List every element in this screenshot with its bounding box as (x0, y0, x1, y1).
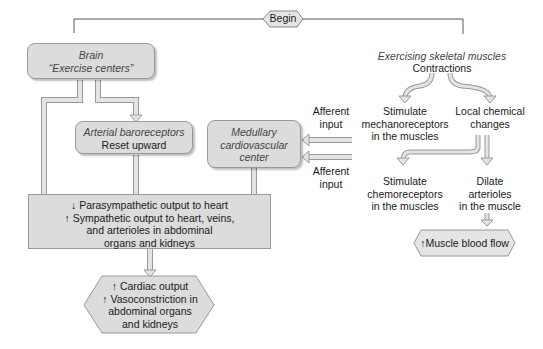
mechano-line3: in the muscles (355, 130, 455, 143)
result-line4: and kidneys (95, 318, 205, 331)
begin-line-right (303, 19, 463, 34)
begin-label: Begin (263, 12, 303, 25)
medullary-line2: cardiovascular (208, 139, 300, 152)
output-line2: ↑ Sympathetic output to heart, veins, (29, 212, 270, 225)
dilate-line1: Dilate (448, 175, 532, 188)
dilate-line2: arterioles (448, 188, 532, 201)
muscle-blood-flow: ↑Muscle blood flow (414, 237, 515, 250)
chemical-text: Local chemical changes (448, 105, 532, 130)
afferent-input-top: Afferent input (306, 105, 356, 130)
chemo-line3: in the muscles (355, 200, 455, 213)
mechano-text: Stimulate mechanoreceptors in the muscle… (355, 105, 455, 143)
mechano-line1: Stimulate (355, 105, 455, 118)
baroreceptors-subtitle: Reset upward (76, 139, 192, 152)
afferent-bottom-line2: input (306, 178, 356, 191)
autonomic-output-box: ↓ Parasympathetic output to heart ↑ Symp… (28, 194, 271, 249)
muscles-title: Exercising skeletal muscles (352, 50, 532, 63)
chemo-line2: chemoreceptors (355, 188, 455, 201)
medullary-box: Medullary cardiovascular center (207, 120, 301, 168)
result-box: ↑ Cardiac output ↑ Vasoconstriction in a… (95, 280, 205, 330)
dilate-text: Dilate arterioles in the muscle (448, 175, 532, 213)
mechano-line2: mechanoreceptors (355, 118, 455, 131)
output-line3: and arterioles in abdominal (29, 224, 270, 237)
result-line1: ↑ Cardiac output (95, 280, 205, 293)
afferent-top-line1: Afferent (306, 105, 356, 118)
output-line1: ↓ Parasympathetic output to heart (29, 199, 270, 212)
baroreceptors-box: Arterial baroreceptors Reset upward (75, 121, 193, 154)
dilate-line3: in the muscle (448, 200, 532, 213)
brain-title: Brain (28, 49, 154, 62)
output-line4: organs and kidneys (29, 237, 270, 250)
afferent-bottom-line1: Afferent (306, 165, 356, 178)
result-line3: abdominal organs (95, 305, 205, 318)
brain-subtitle: “Exercise centers” (28, 62, 154, 75)
brain-box: Brain “Exercise centers” (27, 43, 155, 79)
afferent-top-line2: input (306, 118, 356, 131)
baroreceptors-title: Arterial baroreceptors (76, 126, 192, 139)
chemical-line1: Local chemical (448, 105, 532, 118)
medullary-line1: Medullary (208, 126, 300, 139)
result-line2: ↑ Vasoconstriction in (95, 293, 205, 306)
medullary-line3: center (208, 151, 300, 164)
muscles-subtitle: Contractions (352, 62, 532, 75)
chemical-line2: changes (448, 118, 532, 131)
chemo-text: Stimulate chemoreceptors in the muscles (355, 175, 455, 213)
afferent-input-bottom: Afferent input (306, 165, 356, 190)
chemo-line1: Stimulate (355, 175, 455, 188)
begin-line-left (74, 19, 263, 33)
